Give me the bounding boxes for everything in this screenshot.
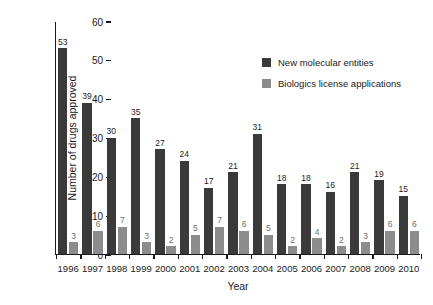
- bar-value-label: 21: [350, 161, 359, 172]
- bar: 39: [82, 103, 92, 254]
- y-tick-label: 50: [92, 53, 103, 68]
- legend-item: Biologics license applications: [262, 73, 401, 94]
- bar: 18: [277, 184, 287, 254]
- bar: 2: [337, 246, 347, 254]
- y-tick-label: 30: [92, 131, 103, 146]
- y-tick-label: 40: [92, 92, 103, 107]
- bar-value-label: 2: [290, 235, 295, 246]
- x-tick-label: 2003: [228, 263, 249, 274]
- bar-value-label: 19: [374, 169, 383, 180]
- bar: 2: [166, 246, 176, 254]
- bar: 15: [399, 196, 409, 254]
- bar: 4: [312, 238, 322, 254]
- x-tick-label: 1996: [58, 263, 79, 274]
- x-tick-mark: [324, 254, 325, 259]
- x-tick-mark: [202, 254, 203, 259]
- chart-legend: New molecular entitiesBiologics license …: [262, 52, 401, 94]
- x-tick-mark: [153, 254, 154, 259]
- x-tick-mark: [372, 254, 373, 259]
- bar: 16: [326, 192, 336, 254]
- x-tick-label: 2010: [398, 263, 419, 274]
- y-axis-title: Number of drugs approved: [66, 76, 78, 201]
- bar: 53: [58, 48, 68, 254]
- bar: 2: [288, 246, 298, 254]
- x-tick-mark: [299, 254, 300, 259]
- x-tick-mark: [226, 254, 227, 259]
- x-tick-mark: [348, 254, 349, 259]
- x-tick-mark: [251, 254, 252, 259]
- bar-value-label: 6: [412, 219, 417, 230]
- bar: 30: [107, 138, 117, 255]
- x-tick-label: 2005: [277, 263, 298, 274]
- x-tick-mark: [275, 254, 276, 259]
- bar: 3: [69, 242, 79, 254]
- x-tick-mark: [129, 254, 130, 259]
- x-tick-label: 2007: [325, 263, 346, 274]
- bar-value-label: 15: [399, 184, 408, 195]
- bar-value-label: 5: [266, 223, 271, 234]
- bar-value-label: 18: [301, 173, 310, 184]
- bar-value-label: 24: [180, 149, 189, 160]
- legend-label: Biologics license applications: [278, 78, 401, 89]
- x-tick-label: 2004: [252, 263, 273, 274]
- legend-swatch: [262, 79, 271, 88]
- bar: 19: [374, 180, 384, 254]
- x-tick-mark: [80, 254, 81, 259]
- bar-value-label: 39: [82, 91, 91, 102]
- bar: 27: [155, 149, 165, 254]
- bar: 5: [191, 235, 201, 254]
- y-tick-mark: [106, 254, 111, 255]
- bar: 5: [264, 235, 274, 254]
- bar-value-label: 53: [58, 37, 67, 48]
- drug-approvals-bar-chart: Number of drugs approved 0102030405060 1…: [0, 0, 433, 305]
- legend-swatch: [262, 58, 271, 67]
- bar-value-label: 21: [228, 161, 237, 172]
- bar: 3: [142, 242, 152, 254]
- bar: 21: [228, 172, 238, 254]
- x-tick-label: 2009: [374, 263, 395, 274]
- bar-value-label: 3: [363, 231, 368, 242]
- legend-item: New molecular entities: [262, 52, 401, 73]
- bar: 7: [118, 227, 128, 254]
- bar: 6: [385, 231, 395, 254]
- bar-value-label: 3: [144, 231, 149, 242]
- bar-value-label: 18: [277, 173, 286, 184]
- x-tick-label: 2001: [179, 263, 200, 274]
- y-tick-mark: [106, 21, 111, 22]
- x-tick-label: 2000: [155, 263, 176, 274]
- x-tick-label: 2006: [301, 263, 322, 274]
- bar-value-label: 6: [242, 219, 247, 230]
- bar-value-label: 4: [315, 227, 320, 238]
- x-tick-mark: [105, 254, 106, 259]
- bar: 6: [93, 231, 103, 254]
- bar: 17: [204, 188, 214, 254]
- x-tick-label: 1999: [131, 263, 152, 274]
- bar-value-label: 17: [204, 176, 213, 187]
- x-tick-label: 1998: [106, 263, 127, 274]
- bar-value-label: 7: [217, 215, 222, 226]
- y-tick-label: 20: [92, 170, 103, 185]
- bar-value-label: 2: [339, 235, 344, 246]
- bar: 6: [239, 231, 249, 254]
- bar: 6: [410, 231, 420, 254]
- bar-value-label: 2: [169, 235, 174, 246]
- bar: 31: [253, 134, 263, 254]
- bar-value-label: 31: [253, 122, 262, 133]
- bar: 21: [350, 172, 360, 254]
- x-tick-mark: [421, 254, 422, 259]
- bar-value-label: 7: [120, 215, 125, 226]
- bar-value-label: 16: [326, 180, 335, 191]
- bar: 3: [361, 242, 371, 254]
- legend-label: New molecular entities: [278, 57, 374, 68]
- y-tick-label: 60: [92, 15, 103, 30]
- bar-value-label: 6: [96, 219, 101, 230]
- y-tick-mark: [106, 60, 111, 61]
- x-tick-mark: [397, 254, 398, 259]
- bar: 7: [215, 227, 225, 254]
- x-tick-label: 1997: [82, 263, 103, 274]
- x-tick-label: 2008: [350, 263, 371, 274]
- bar-value-label: 3: [71, 231, 76, 242]
- bar: 24: [180, 161, 190, 254]
- bar: 18: [301, 184, 311, 254]
- bar: 35: [131, 118, 141, 254]
